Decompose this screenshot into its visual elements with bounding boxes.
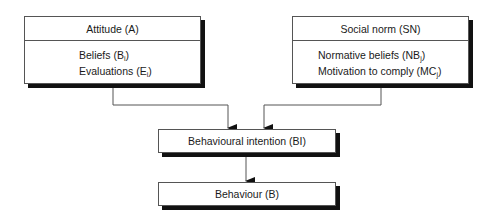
intention-title: Behavioural intention (BI) xyxy=(188,135,306,147)
social-norm-box: Social norm (SN) Normative beliefs (NBj)… xyxy=(292,16,469,84)
attitude-items: Beliefs (Bi) Evaluations (Ei) xyxy=(25,41,200,81)
attitude-box: Attitude (A) Beliefs (Bi) Evaluations (E… xyxy=(24,16,201,84)
intention-box: Behavioural intention (BI) xyxy=(158,129,336,153)
edge-socialnorm-to-intention xyxy=(264,86,381,128)
edge-attitude-to-intention xyxy=(113,86,228,128)
attitude-title: Attitude (A) xyxy=(25,17,200,41)
behaviour-box: Behaviour (B) xyxy=(158,182,336,206)
attitude-item-evaluations: Evaluations (Ei) xyxy=(79,65,200,81)
behaviour-title: Behaviour (B) xyxy=(215,188,279,200)
social-norm-item-normative-beliefs: Normative beliefs (NBj) xyxy=(318,49,468,65)
social-norm-title: Social norm (SN) xyxy=(293,17,468,41)
attitude-item-beliefs: Beliefs (Bi) xyxy=(79,49,200,65)
social-norm-items: Normative beliefs (NBj) Motivation to co… xyxy=(293,41,468,81)
social-norm-item-motivation: Motivation to comply (MCj) xyxy=(318,65,468,81)
